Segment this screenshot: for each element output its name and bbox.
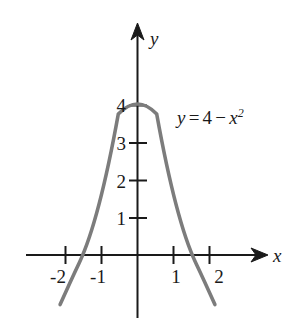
y-tick-label-1: 1	[117, 209, 127, 228]
y-tick-label-2: 2	[117, 172, 127, 191]
x-axis-label: x	[273, 246, 281, 265]
equation-lhs: y	[177, 107, 186, 128]
parabola-figure: y x 4 3 2 1 -2 -1 1 2 y=4−x2	[0, 0, 299, 324]
graph-canvas	[0, 0, 299, 324]
y-tick-label-3: 3	[117, 134, 127, 153]
y-tick-label-4: 4	[117, 96, 127, 115]
x-tick-label-2: 2	[214, 267, 224, 286]
x-tick-label-minus1: -1	[90, 267, 106, 286]
x-tick-label-1: 1	[171, 267, 181, 286]
equation-minus-sign: −	[215, 107, 226, 128]
equation-annotation: y=4−x2	[177, 107, 244, 127]
equation-variable: x	[229, 107, 238, 128]
x-tick-label-minus2: -2	[50, 267, 66, 286]
equation-equals: =	[189, 107, 200, 128]
equation-constant: 4	[203, 107, 213, 128]
y-axis-label: y	[150, 29, 158, 48]
equation-exponent: 2	[238, 106, 244, 120]
